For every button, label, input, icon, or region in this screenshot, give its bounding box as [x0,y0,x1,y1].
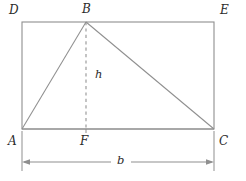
base-label: b [117,154,124,166]
vertex-label-D: D [9,4,19,16]
geometry-figure: D B E A F C h b [0,0,246,181]
dimension-arrowhead-right [206,159,214,164]
vertex-label-E: E [220,4,229,16]
dimension-arrowhead-left [22,159,30,164]
vertex-label-B: B [82,3,91,15]
height-label: h [95,68,102,80]
vertex-label-F: F [80,135,88,147]
vertex-label-A: A [8,135,17,147]
triangle-side-AB [22,22,86,129]
rectangle-ADEC [22,22,214,129]
vertex-label-C: C [219,135,228,147]
